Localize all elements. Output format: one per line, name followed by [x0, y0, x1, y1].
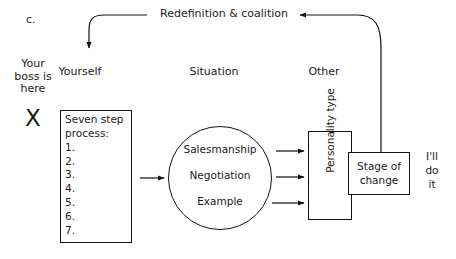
- circle-item-example: Example: [164, 195, 276, 207]
- boss-position-note: Your boss is here: [4, 58, 62, 96]
- column-header-other: Other: [292, 66, 356, 79]
- boss-position-x-marker: X: [4, 105, 62, 131]
- seven-step-item: 1.: [65, 141, 135, 155]
- outcome-ill-do-it: I'll do it: [414, 150, 450, 192]
- panel-label: c.: [26, 14, 36, 27]
- seven-step-item: 4.: [65, 182, 135, 196]
- seven-step-process-content: Seven step process: 1. 2. 3. 4. 5. 6. 7.: [65, 113, 135, 238]
- figure-canvas: c. Redefinition & coalition Yourself Sit…: [0, 0, 456, 259]
- stage-of-change-label: Stage of change: [348, 152, 410, 195]
- feedback-arrow-to-yourself: [89, 15, 147, 48]
- seven-step-item: 3.: [65, 168, 135, 182]
- seven-step-item: 5.: [65, 196, 135, 210]
- column-header-situation: Situation: [176, 66, 252, 79]
- circle-item-salesmanship: Salesmanship: [164, 143, 276, 155]
- seven-step-item: 6.: [65, 210, 135, 224]
- seven-step-heading: Seven step process:: [65, 113, 135, 141]
- circle-item-negotiation: Negotiation: [164, 169, 276, 181]
- flow-title-redefinition-coalition: Redefinition & coalition: [149, 8, 299, 21]
- seven-step-item: 7.: [65, 224, 135, 238]
- personality-type-label: Personality type: [308, 86, 352, 175]
- seven-step-item: 2.: [65, 155, 135, 169]
